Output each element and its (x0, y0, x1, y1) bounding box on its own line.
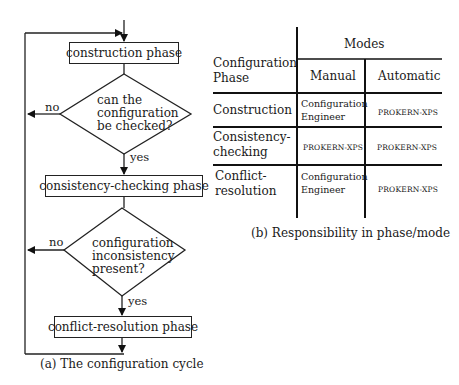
row-construction-phase: Construction (213, 103, 292, 118)
decision-inconsistency-present: configuration inconsistency present? (92, 237, 175, 276)
row-consistency-phase: Consistency- checking (213, 130, 291, 160)
header-configuration-phase: Configuration Phase (213, 56, 297, 86)
decision-can-be-checked: can the configuration be checked? (97, 94, 179, 133)
construction-phase-label: construction phase (66, 46, 182, 60)
row-construction-manual: Configuration Engineer (301, 97, 368, 123)
row-conflict-phase: Conflict- resolution (215, 169, 276, 199)
row-construction-automatic: PROKERN-XPS (378, 105, 438, 120)
row-consistency-automatic: PROKERN-XPS (377, 140, 437, 155)
conflict-resolution-phase-box: conflict-resolution phase (54, 316, 192, 338)
conflict-resolution-phase-label: conflict-resolution phase (48, 320, 198, 334)
consistency-checking-phase-label: consistency-checking phase (39, 179, 208, 193)
header-manual: Manual (310, 69, 356, 84)
row-conflict-automatic: PROKERN-XPS (378, 182, 438, 197)
no-label-2: no (49, 235, 63, 249)
row-conflict-manual: Configuration Engineer (301, 170, 368, 196)
header-modes: Modes (344, 37, 404, 52)
consistency-checking-phase-box: consistency-checking phase (45, 175, 203, 197)
no-label-1: no (45, 100, 59, 114)
construction-phase-box: construction phase (69, 42, 179, 64)
row-consistency-manual: PROKERN-XPS (303, 140, 363, 155)
table-caption: (b) Responsibility in phase/mode (251, 226, 450, 240)
flowchart-caption: (a) The configuration cycle (40, 357, 204, 371)
yes-label-2: yes (128, 294, 147, 308)
yes-label-1: yes (130, 150, 149, 164)
header-automatic: Automatic (378, 69, 440, 84)
